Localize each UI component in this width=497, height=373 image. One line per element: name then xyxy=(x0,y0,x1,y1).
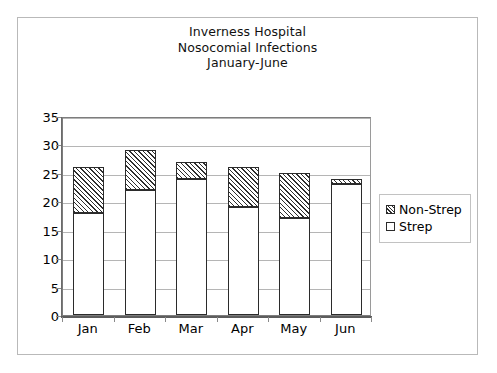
chart-title-line-2: Nosocomial Infections xyxy=(18,40,477,56)
bar-segment-strep-feb[interactable] xyxy=(125,190,156,315)
chart-title-line-1: Inverness Hospital xyxy=(18,24,477,40)
bar-segment-non-strep-feb[interactable] xyxy=(125,150,156,190)
gridline-10 xyxy=(63,260,370,261)
plot-area xyxy=(62,117,371,316)
chart-title-line-3: January-June xyxy=(18,55,477,71)
x-axis-labels: JanFebMarAprMayJun xyxy=(62,321,371,343)
bar-segment-strep-apr[interactable] xyxy=(228,207,259,315)
x-tick-label-may: May xyxy=(267,321,321,336)
legend-item-non-strep: Non-Strep xyxy=(386,201,462,218)
x-tick-mark-4 xyxy=(268,317,269,322)
bar-segment-non-strep-may[interactable] xyxy=(279,173,310,218)
gridline-20 xyxy=(63,203,370,204)
bar-group-apr[interactable] xyxy=(228,116,259,315)
bar-segment-strep-jun[interactable] xyxy=(331,184,362,315)
gridline-25 xyxy=(63,175,370,176)
gridline-5 xyxy=(63,289,370,290)
chart-legend: Non-Strep Strep xyxy=(379,194,471,243)
bar-segment-strep-jan[interactable] xyxy=(73,213,104,315)
legend-label-non-strep: Non-Strep xyxy=(399,203,462,216)
x-tick-mark-3 xyxy=(217,317,218,322)
x-tick-mark-2 xyxy=(165,317,166,322)
bar-segment-strep-mar[interactable] xyxy=(176,179,207,315)
legend-label-strep: Strep xyxy=(399,220,432,233)
bar-group-jan[interactable] xyxy=(73,116,104,315)
x-tick-label-mar: Mar xyxy=(164,321,218,336)
bar-segment-strep-may[interactable] xyxy=(279,218,310,315)
gridline-15 xyxy=(63,232,370,233)
bar-group-jun[interactable] xyxy=(331,116,362,315)
x-tick-label-jun: Jun xyxy=(318,321,372,336)
legend-swatch-hatched-icon xyxy=(386,205,395,214)
bar-segment-non-strep-jun[interactable] xyxy=(331,179,362,185)
legend-item-strep: Strep xyxy=(386,218,462,235)
chart-frame: Inverness Hospital Nosocomial Infections… xyxy=(17,17,478,355)
bar-group-feb[interactable] xyxy=(125,116,156,315)
bar-group-mar[interactable] xyxy=(176,116,207,315)
x-tick-mark-0 xyxy=(62,317,63,322)
x-tick-mark-6 xyxy=(371,317,372,322)
x-tick-label-feb: Feb xyxy=(112,321,166,336)
y-axis-tick-marks xyxy=(18,117,64,317)
bar-group-may[interactable] xyxy=(279,116,310,315)
x-tick-mark-5 xyxy=(320,317,321,322)
legend-swatch-white-icon xyxy=(386,222,395,231)
x-tick-label-jan: Jan xyxy=(61,321,115,336)
bar-segment-non-strep-jan[interactable] xyxy=(73,167,104,212)
gridline-35 xyxy=(63,118,370,119)
bar-segment-non-strep-mar[interactable] xyxy=(176,162,207,179)
gridline-30 xyxy=(63,146,370,147)
x-tick-mark-1 xyxy=(114,317,115,322)
bar-segment-non-strep-apr[interactable] xyxy=(228,167,259,207)
chart-title: Inverness Hospital Nosocomial Infections… xyxy=(18,24,477,71)
x-tick-label-apr: Apr xyxy=(215,321,269,336)
